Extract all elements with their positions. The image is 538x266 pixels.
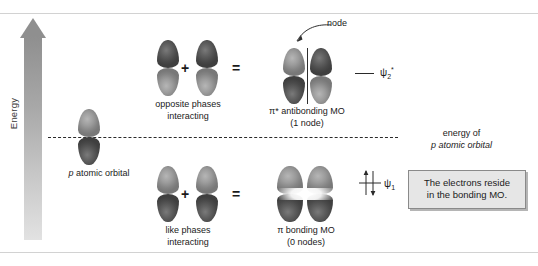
callout-line-2: in the bonding MO.: [413, 189, 521, 201]
psi-2-superscript: *: [391, 66, 394, 73]
bottom-divider-rule: [0, 252, 538, 253]
energy-axis-arrow: [20, 18, 46, 240]
energy-arrowhead: [20, 18, 46, 38]
bonding-operand-caption-line-1: like phases: [138, 225, 238, 237]
antibonding-mo-caption-line-2: (1 node): [257, 118, 357, 130]
reference-line-1: energy of: [404, 128, 519, 140]
bonding-operand-caption: like phases interacting: [138, 225, 238, 248]
bonding-mo-right-lower-lobe: [307, 194, 333, 222]
bonding-operand-right-lower-lobe: [196, 194, 218, 222]
psi-2-subscript: 2: [387, 73, 391, 80]
antibonding-energy-level: [355, 73, 374, 74]
bonding-equals-sign: =: [232, 187, 240, 201]
bonding-operand-caption-line-2: interacting: [138, 237, 238, 249]
p-atomic-orbital: [78, 109, 100, 165]
antibonding-operand-caption-line-1: opposite phases: [138, 99, 238, 111]
operand-right-upper-lobe: [196, 40, 218, 68]
antibonding-plus-sign: +: [181, 61, 189, 75]
bonding-mo-caption-line-1: π bonding MO: [256, 225, 356, 237]
node-label: node: [327, 18, 347, 28]
operand-right-lower-lobe: [196, 68, 218, 96]
antibonding-operand-orbital-left: [157, 40, 179, 96]
antibonding-mo-orbital-right: [310, 48, 332, 104]
callout-line-1: The electrons reside: [413, 177, 521, 189]
psi-1-label: ψ1: [384, 178, 395, 191]
energy-axis-label: Energy: [8, 84, 19, 144]
antibonding-mo-right-lower-lobe: [310, 76, 332, 104]
bonding-operand-orbital-right: [196, 166, 218, 222]
bonding-mo-caption-line-2: (0 nodes): [256, 237, 356, 249]
electrons-callout-box: The electrons reside in the bonding MO.: [408, 170, 526, 209]
bonding-mo-right-half: [307, 166, 333, 222]
reference-energy-dashed-line: [48, 137, 398, 138]
bonding-mo-caption: π bonding MO (0 nodes): [256, 225, 356, 248]
reference-line-2: p atomic orbital: [404, 140, 519, 152]
antibonding-mo-orbital-left: [283, 48, 305, 104]
bonding-operand-right-upper-lobe: [196, 166, 218, 194]
p-orbital-caption-rest: atomic orbital: [73, 168, 129, 178]
bonding-plus-sign: +: [181, 187, 189, 201]
antibonding-operand-orbital-right: [196, 40, 218, 96]
antibonding-operand-caption: opposite phases interacting: [138, 99, 238, 122]
top-divider-rule: [0, 13, 538, 14]
p-atomic-orbital-caption: p atomic orbital: [49, 168, 149, 180]
bonding-operand-left-lower-lobe: [157, 194, 179, 222]
bonding-operand-orbital-left: [157, 166, 179, 222]
node-plane-line: [307, 48, 308, 104]
antibonding-mo-left-lower-lobe: [283, 76, 305, 104]
energy-arrow-shaft: [24, 36, 42, 240]
bonding-electron-pair: [358, 168, 382, 198]
mo-diagram-figure: Energy energy of p atomic orbital p atom…: [0, 0, 538, 266]
operand-left-lower-lobe: [157, 68, 179, 96]
antibonding-mo-caption: π* antibonding MO (1 node): [257, 106, 357, 129]
operand-left-upper-lobe: [157, 40, 179, 68]
reference-energy-annotation: energy of p atomic orbital: [404, 128, 519, 151]
antibonding-mo-caption-line-1: π* antibonding MO: [257, 106, 357, 118]
bonding-mo-left-half: [277, 166, 303, 222]
bonding-mo-left-lower-lobe: [277, 194, 303, 222]
bonding-mo-left-upper-lobe: [277, 166, 303, 194]
bonding-mo-right-upper-lobe: [307, 166, 333, 194]
psi-1-subscript: 1: [391, 184, 395, 191]
bonding-mo-orbital: [277, 166, 335, 222]
reference-line-2-text: p atomic orbital: [431, 140, 492, 150]
antibonding-equals-sign: =: [232, 61, 240, 75]
bonding-operand-left-upper-lobe: [157, 166, 179, 194]
antibonding-mo-left-upper-lobe: [283, 48, 305, 76]
psi-2-star-label: ψ2*: [380, 66, 394, 80]
antibonding-mo-right-upper-lobe: [310, 48, 332, 76]
p-orbital-upper-lobe: [78, 109, 100, 137]
p-orbital-lower-lobe: [78, 137, 100, 165]
antibonding-operand-caption-line-2: interacting: [138, 111, 238, 123]
